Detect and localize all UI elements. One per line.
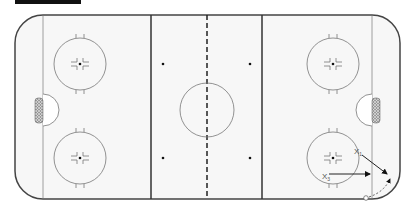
goal-net-left [35,98,43,123]
hockey-rink: X1 X3 [0,0,410,216]
puck-icon [364,196,369,201]
goal-net-right [372,98,380,123]
